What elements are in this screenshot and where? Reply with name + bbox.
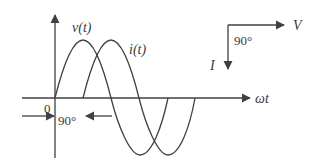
phasor-current-label: I (209, 58, 216, 73)
voltage-label: v(t) (72, 20, 92, 36)
current-label: i(t) (129, 42, 146, 58)
phase-diagram: v(t) i(t) 0 ωt 90° V I 90° (0, 0, 317, 165)
x-axis-label: ωt (255, 91, 270, 106)
phasor-voltage-label: V (293, 18, 303, 33)
origin-label: 0 (44, 101, 51, 116)
phasor-angle-label: 90° (234, 33, 252, 48)
phase-shift-label: 90° (58, 113, 76, 128)
